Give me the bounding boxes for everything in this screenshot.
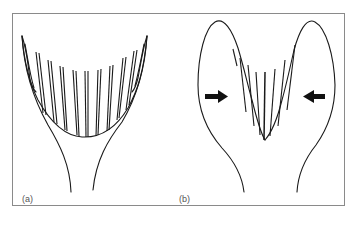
panel-a-cup-outline	[22, 36, 147, 137]
panel-b-drawing	[198, 21, 335, 192]
panel-b-ribs	[233, 45, 295, 140]
panel-b-lobe-right	[265, 21, 335, 192]
panel-a-drawing	[22, 36, 147, 192]
figure: (a) (b)	[0, 0, 355, 229]
panel-a-ribs	[36, 50, 137, 137]
arrow-left-icon	[303, 90, 325, 103]
arrow-right-icon	[205, 90, 228, 103]
diagram-canvas	[0, 0, 355, 229]
panel-a-label: (a)	[22, 194, 33, 204]
panel-b-lobe-left	[198, 21, 265, 192]
panel-b-label: (b)	[179, 194, 190, 204]
